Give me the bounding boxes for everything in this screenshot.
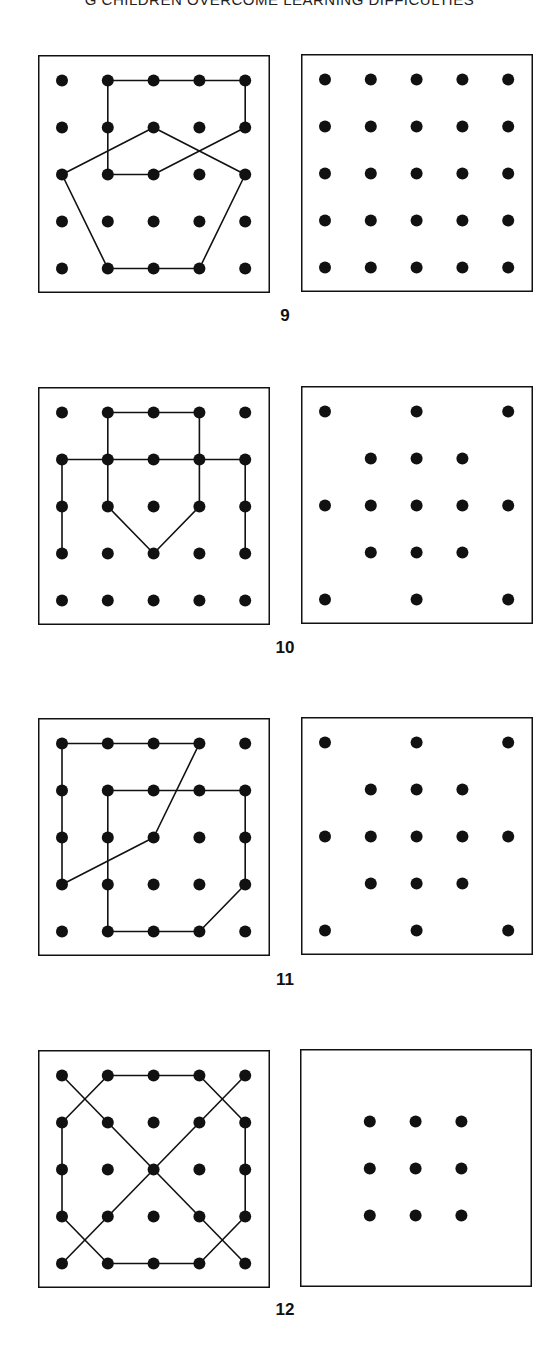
figure-12-blank-grid bbox=[300, 1049, 532, 1287]
figure-12-label: 12 bbox=[255, 1300, 315, 1320]
figure-9-label: 9 bbox=[255, 306, 315, 326]
figure-11-blank-grid bbox=[301, 717, 533, 955]
figure-12-pattern-grid bbox=[38, 1050, 270, 1288]
figure-10-blank-grid bbox=[301, 386, 533, 624]
figure-9-blank-grid bbox=[301, 54, 533, 292]
figure-11-label: 11 bbox=[255, 970, 315, 990]
figure-10-pattern-grid bbox=[38, 387, 270, 625]
figure-10-label: 10 bbox=[255, 638, 315, 658]
figure-11-pattern-grid bbox=[38, 718, 270, 956]
figure-9-pattern-grid bbox=[38, 55, 270, 293]
page-header: G CHILDREN OVERCOME LEARNING DIFFICULTIE… bbox=[0, 0, 559, 8]
